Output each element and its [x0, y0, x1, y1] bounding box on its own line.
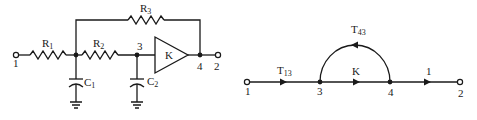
output-terminal: [215, 52, 220, 57]
terminal-2-label: 2: [214, 60, 220, 72]
resistor-r1: [30, 51, 66, 59]
arrow-icon: [353, 79, 360, 86]
c2-label: C2: [147, 75, 158, 89]
node-3-label: 3: [137, 40, 143, 52]
node-4-label: 4: [197, 60, 203, 72]
capacitor-c2: [130, 55, 144, 108]
r3-label: R3: [140, 2, 151, 16]
branch-t13-label: T13: [277, 64, 292, 78]
circuit-schematic: 1 R1 R3 R2 3 K 4 2: [13, 2, 221, 108]
c1-label: C1: [84, 76, 95, 90]
diagram-canvas: 1 R1 R3 R2 3 K 4 2: [0, 0, 477, 120]
sfg-node-1-label: 1: [245, 85, 251, 97]
sfg-node-4-label: 4: [388, 86, 394, 98]
node-4: [198, 53, 203, 58]
resistor-r3: [128, 16, 164, 24]
sfg-node-2-label: 2: [458, 87, 464, 99]
branch-t43-label: T43: [351, 23, 366, 37]
signal-flow-graph: 1 T13 3 K T43 4 1 2: [244, 23, 463, 99]
arrow-icon: [280, 79, 287, 86]
sfg-node-2: [457, 79, 462, 84]
branch-k-label: K: [352, 65, 360, 77]
resistor-r2: [82, 51, 118, 59]
arrow-icon: [424, 79, 431, 86]
terminal-1-label: 1: [13, 57, 19, 69]
amplifier-gain-label: K: [165, 49, 173, 61]
capacitor-c1: [69, 55, 83, 108]
ground-icon: [131, 102, 143, 108]
r2-label: R2: [93, 37, 104, 51]
arrow-icon: [351, 42, 358, 49]
ground-icon: [70, 102, 82, 108]
sfg-node-3-label: 3: [317, 85, 323, 97]
branch-unity-label: 1: [426, 65, 432, 77]
r1-label: R1: [42, 37, 53, 51]
sfg-node-1: [244, 79, 249, 84]
sfg-node-4: [388, 80, 393, 85]
